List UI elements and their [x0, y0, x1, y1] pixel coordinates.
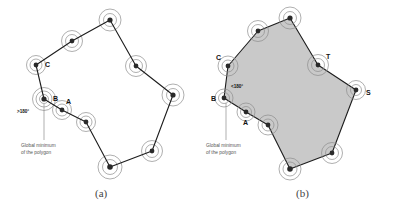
vertex-label-t: T — [326, 53, 331, 60]
polygon-filled-b — [224, 18, 356, 169]
vertex-dot — [150, 149, 155, 154]
vertex-dot — [287, 166, 293, 172]
vertex-dot — [41, 96, 46, 101]
polygon-diagram-svg: B C A >180° Global minimum of the polygo… — [0, 0, 401, 212]
polygon-outline-a — [36, 20, 173, 167]
callout-text-a-line1: Global minimum — [21, 143, 56, 148]
vertex-dot — [170, 92, 175, 97]
vertex-dot — [134, 64, 139, 69]
vertex-dot — [84, 120, 89, 125]
panel-caption-b: (b) — [296, 187, 309, 200]
vertex-label-b: B — [53, 95, 58, 102]
vertex-label-b: B — [211, 95, 216, 102]
vertex-label-a: A — [66, 98, 71, 105]
vertex-dot — [107, 164, 113, 170]
vertex-dot — [266, 123, 271, 128]
vertex-dot — [70, 39, 75, 44]
panel-b: B C T S A <180° Global minimum of the po… — [206, 7, 371, 200]
callout-text-b-line1: Global minimum — [206, 143, 241, 148]
vertex-dot — [60, 108, 65, 113]
vertex-dot — [256, 29, 261, 34]
vertex-dot — [226, 64, 231, 69]
figure-container: B C A >180° Global minimum of the polygo… — [0, 0, 401, 212]
vertex-label-s: S — [366, 89, 371, 96]
vertex-dot — [34, 63, 39, 68]
vertex-dot — [354, 88, 359, 93]
vertex-dot — [316, 63, 321, 68]
angle-note-a: >180° — [17, 109, 29, 114]
callout-text-b-line2: of the polygon — [206, 150, 236, 155]
vertex-dot — [107, 17, 112, 22]
vertex-label-c: C — [216, 54, 221, 61]
vertex-dot — [330, 151, 335, 156]
vertex-label-a: A — [243, 119, 248, 126]
vertex-dot — [222, 96, 227, 101]
vertex-dot — [244, 110, 249, 115]
vertex-label-c: C — [45, 61, 50, 68]
vertex-dot — [287, 15, 292, 20]
angle-note-b: <180° — [231, 84, 243, 89]
callout-text-a-line2: of the polygon — [21, 150, 51, 155]
panel-a: B C A >180° Global minimum of the polygo… — [17, 9, 184, 200]
panel-caption-a: (a) — [95, 187, 108, 200]
